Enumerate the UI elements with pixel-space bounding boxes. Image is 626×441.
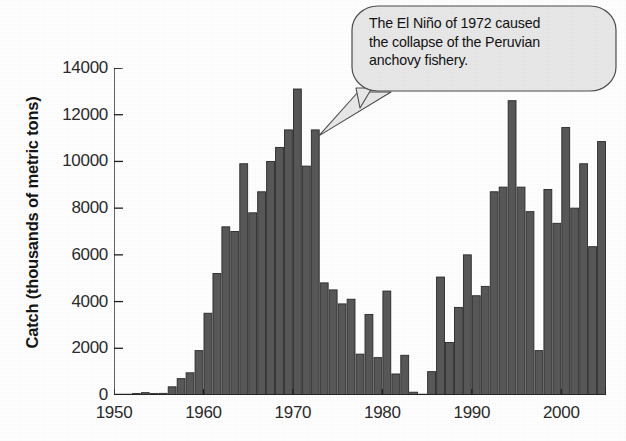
callout-tail — [319, 92, 391, 136]
callout-line-1: The El Niño of 1972 caused — [369, 14, 599, 33]
callout-line-3: anchovy fishery. — [369, 51, 599, 70]
callout-line-2: the collapse of the Peruvian — [369, 33, 599, 52]
annotation-callout-text: The El Niño of 1972 caused the collapse … — [369, 14, 599, 70]
bar-chart-figure: Catch (thousands of metric tons) 0200040… — [0, 0, 626, 441]
